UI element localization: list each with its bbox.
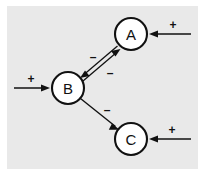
edge-b-to-a <box>83 49 121 81</box>
sign-minus-b-to-c: – <box>104 103 111 117</box>
node-a[interactable]: A <box>115 18 147 50</box>
edge-b-to-c <box>81 99 120 130</box>
network-diagram: A B C + + + – – – <box>0 0 205 179</box>
sign-plus-input-b: + <box>27 72 34 86</box>
sign-minus-a-to-b: – <box>90 50 97 64</box>
edge-input-a-arrowhead <box>149 31 158 38</box>
node-c[interactable]: C <box>115 123 147 155</box>
node-b-label: B <box>63 80 73 97</box>
sign-plus-input-a: + <box>169 18 176 32</box>
node-a-label: A <box>126 26 136 43</box>
sign-plus-input-c: + <box>168 123 175 137</box>
figure-root: A B C + + + – – – <box>0 0 205 179</box>
sign-minus-b-to-a: – <box>107 66 114 80</box>
edge-input-b-arrowhead <box>41 85 50 92</box>
node-b[interactable]: B <box>52 72 84 104</box>
node-c-label: C <box>126 131 137 148</box>
edge-input-c-arrowhead <box>149 136 158 143</box>
